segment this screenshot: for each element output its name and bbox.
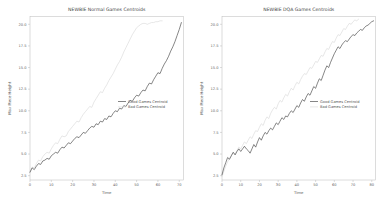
x-axis-label: Time [101,190,112,195]
series-line-bad-games-centroid [30,21,162,172]
x-tick-label: 70 [350,183,355,187]
y-tick-label: 17.5 [210,44,218,48]
x-tick-label: 10 [49,183,54,187]
figure-canvas: NEWBIE Normal Games Centroids01020304050… [0,0,383,207]
legend-label-2: Bad Games Centroid [128,105,165,109]
x-tick-label: 50 [313,183,318,187]
x-tick-label: 70 [177,183,182,187]
x-axis-label: Time [293,190,304,195]
x-tick-label: 0 [220,183,223,187]
y-tick-label: 7.5 [21,131,27,135]
y-tick-label: 10.0 [19,109,28,113]
y-tick-label: 5.0 [212,152,218,156]
x-tick-label: 10 [238,183,243,187]
plot-frame [30,17,184,181]
x-tick-label: 60 [156,183,161,187]
line-chart-normal-games: NEWBIE Normal Games Centroids01020304050… [0,0,192,207]
x-tick-label: 40 [113,183,118,187]
y-tick-label: 15.0 [19,66,28,70]
series-line-good-games-centroid [222,21,374,175]
legend-label-2: Bad Games Centroid [320,105,357,109]
series-line-bad-games-centroid [222,19,359,176]
x-tick-label: 0 [29,183,32,187]
series-line-good-games-centroid [30,23,181,173]
x-tick-label: 50 [134,183,139,187]
chart-panel-left: NEWBIE Normal Games Centroids01020304050… [0,0,192,207]
line-chart-dqa-games: NEWBIE DQA Games Centroids01020304050607… [192,0,383,207]
x-tick-label: 30 [275,183,280,187]
y-tick-label: 20.0 [19,23,28,27]
y-tick-label: 7.5 [212,131,218,135]
y-axis-label: Max Piece Height [198,81,203,114]
y-tick-label: 12.5 [19,87,27,91]
legend-label-1: Good Games Centroid [128,100,168,104]
chart-title: NEWBIE DQA Games Centroids [263,7,335,12]
plot-frame [222,17,376,181]
y-tick-label: 2.5 [21,174,27,178]
y-tick-label: 17.5 [19,44,27,48]
y-tick-label: 12.5 [210,87,218,91]
chart-panel-right: NEWBIE DQA Games Centroids01020304050607… [192,0,383,207]
y-tick-label: 20.0 [210,23,219,27]
y-tick-label: 2.5 [212,174,218,178]
y-tick-label: 5.0 [21,152,27,156]
chart-title: NEWBIE Normal Games Centroids [68,7,146,12]
y-tick-label: 10.0 [210,109,219,113]
y-axis-label: Max Piece Height [7,81,12,114]
legend-label-1: Good Games Centroid [320,100,360,104]
x-tick-label: 40 [294,183,299,187]
x-tick-label: 20 [257,183,262,187]
x-tick-label: 80 [369,183,374,187]
x-tick-label: 60 [332,183,337,187]
y-tick-label: 15.0 [210,66,219,70]
x-tick-label: 30 [92,183,97,187]
x-tick-label: 20 [70,183,75,187]
